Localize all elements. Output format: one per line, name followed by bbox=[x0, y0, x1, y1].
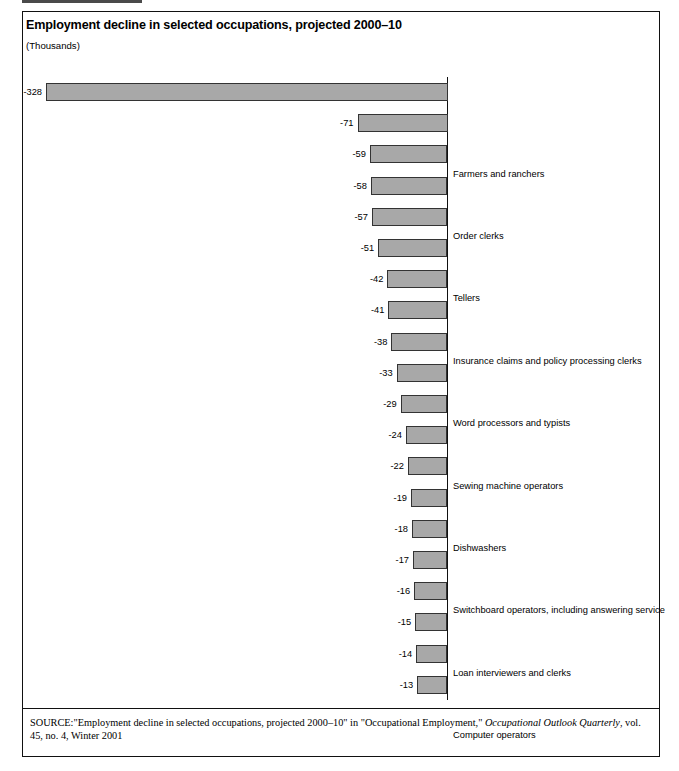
bar bbox=[408, 457, 448, 475]
source-text-1: "Employment decline in selected occupati… bbox=[74, 717, 485, 728]
bar bbox=[413, 551, 447, 569]
bar bbox=[378, 239, 447, 257]
figure-page: Employment decline in selected occupatio… bbox=[0, 0, 679, 771]
bar-value-label: -71 bbox=[340, 114, 353, 132]
bar-value-label: -22 bbox=[390, 457, 403, 475]
bar-row: -18Secretaries, except legal, medical, a… bbox=[0, 520, 679, 538]
bar-row: -22Machine feeders and offbearers bbox=[0, 457, 679, 475]
bar bbox=[370, 145, 448, 163]
bar-value-label: -14 bbox=[399, 645, 412, 663]
source-journal-title: Occupational Outlook Quarterly bbox=[485, 717, 620, 728]
bar-row: -71Order clerks bbox=[0, 114, 679, 132]
bar bbox=[388, 301, 447, 319]
bar bbox=[412, 520, 448, 538]
bar-value-label: -24 bbox=[388, 426, 401, 444]
bar-row: -17Prepress technicians and workers bbox=[0, 551, 679, 569]
source-label: SOURCE: bbox=[30, 717, 74, 728]
source-divider bbox=[22, 708, 660, 709]
bar bbox=[417, 676, 447, 694]
bar-value-label: -41 bbox=[371, 301, 384, 319]
bar-value-label: -328 bbox=[23, 83, 42, 101]
bar-row: -58Insurance claims and policy processin… bbox=[0, 177, 679, 195]
bar-value-label: -16 bbox=[397, 582, 410, 600]
bar-value-label: -38 bbox=[374, 333, 387, 351]
bar-row: -328Farmers and ranchers bbox=[0, 83, 679, 101]
bar-value-label: -19 bbox=[394, 489, 407, 507]
bar-value-label: -13 bbox=[400, 676, 413, 694]
bar-value-label: -51 bbox=[361, 239, 374, 257]
bar-value-label: -18 bbox=[395, 520, 408, 538]
source-note: SOURCE:"Employment decline in selected o… bbox=[30, 716, 652, 742]
bar-chart-plot-area: -328Farmers and ranchers-71Order clerks-… bbox=[0, 0, 679, 771]
bar bbox=[387, 270, 447, 288]
bar-value-label: -15 bbox=[398, 613, 411, 631]
bar bbox=[391, 333, 447, 351]
bar-value-label: -29 bbox=[383, 395, 396, 413]
bar-value-label: -57 bbox=[354, 208, 367, 226]
bar-row: -59Tellers bbox=[0, 145, 679, 163]
bar bbox=[371, 177, 448, 195]
bar-value-label: -33 bbox=[379, 364, 392, 382]
bar bbox=[358, 114, 448, 132]
bar bbox=[414, 582, 447, 600]
zero-axis-line bbox=[447, 77, 449, 700]
bar-row: -13Railroad brake, signal, and switch op… bbox=[0, 676, 679, 694]
bar-value-label: -42 bbox=[370, 270, 383, 288]
bar-row: -57Word processors and typists bbox=[0, 208, 679, 226]
bar-row: -24Electrical and electronic equipment a… bbox=[0, 426, 679, 444]
bar-value-label: -59 bbox=[352, 145, 365, 163]
bar-value-label: -17 bbox=[396, 551, 409, 569]
bar bbox=[406, 426, 448, 444]
bar-row: -19Telephone operators bbox=[0, 489, 679, 507]
bar-row: -42Dishwashers bbox=[0, 270, 679, 288]
bar-row: -51Sewing machine operators bbox=[0, 239, 679, 257]
bar bbox=[46, 83, 448, 101]
bar-row: -16Office machine operators, except comp… bbox=[0, 582, 679, 600]
bar-row: -14Postal Service mail sorters, processo… bbox=[0, 645, 679, 663]
bar-row: -38Loan interviewers and clerks bbox=[0, 333, 679, 351]
bar-row: -15Cutting, punching, and press machine … bbox=[0, 613, 679, 631]
bar-row: -33Computer operators bbox=[0, 364, 679, 382]
bar-row: -29Dining room and cafeteria attendants … bbox=[0, 395, 679, 413]
bar-row: -41Switchboard operators, including answ… bbox=[0, 301, 679, 319]
bar bbox=[411, 489, 448, 507]
bar-value-label: -58 bbox=[353, 177, 366, 195]
bar bbox=[415, 613, 447, 631]
bar bbox=[416, 645, 447, 663]
bar bbox=[372, 208, 448, 226]
bar bbox=[397, 364, 448, 382]
bar bbox=[401, 395, 448, 413]
